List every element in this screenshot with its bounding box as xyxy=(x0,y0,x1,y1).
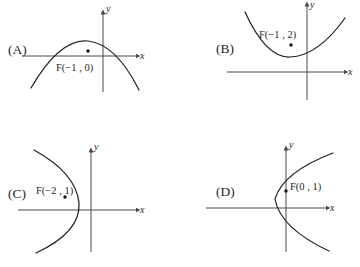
panel-b-focus-label: F(−1 , 2) xyxy=(259,29,297,41)
multiple-choice-figure: (A) x y F(−1 , 0) (B) x y F(−1 , 2) (C) xyxy=(0,0,360,267)
panel-b-focus-dot xyxy=(289,43,292,46)
panel-d-letter: (D) xyxy=(216,184,235,199)
panel-b-x-axis-label: x xyxy=(347,66,353,77)
panel-c-y-axis-label: y xyxy=(93,141,99,152)
panel-c: (C) x y F(−2 , 1) xyxy=(8,141,145,253)
panel-d-focus-dot xyxy=(284,189,287,192)
panel-a-focus-dot xyxy=(86,49,89,52)
panel-b-y-axis-label: y xyxy=(309,0,315,10)
panel-a-focus-label: F(−1 , 0) xyxy=(56,62,94,74)
panel-a-letter: (A) xyxy=(8,42,27,57)
panel-d-parabola xyxy=(275,153,333,251)
panel-c-letter: (C) xyxy=(8,186,26,201)
panel-b: (B) x y F(−1 , 2) xyxy=(216,0,353,100)
panel-b-letter: (B) xyxy=(216,41,234,56)
panel-d-x-axis-label: x xyxy=(329,202,335,213)
panel-c-x-axis-label: x xyxy=(139,204,145,215)
figure-canvas: (A) x y F(−1 , 0) (B) x y F(−1 , 2) (C) xyxy=(0,0,360,267)
panel-a-x-axis-label: x xyxy=(139,50,145,61)
panel-c-focus-label: F(−2 , 1) xyxy=(36,185,74,197)
panel-d-y-axis-label: y xyxy=(288,139,294,150)
panel-a: (A) x y F(−1 , 0) xyxy=(8,3,145,92)
panel-d-focus-label: F(0 , 1) xyxy=(290,181,322,193)
panel-a-y-axis-label: y xyxy=(105,3,111,14)
panel-c-parabola xyxy=(34,150,79,253)
panel-d: (D) x y F(0 , 1) xyxy=(206,139,335,252)
